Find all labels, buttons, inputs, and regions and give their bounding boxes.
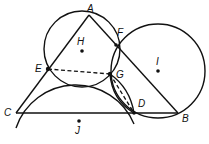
geometry-diagram: A B C D E F G H I J: [0, 0, 209, 144]
point-f: [114, 43, 118, 47]
label-g: G: [116, 69, 124, 80]
label-d: D: [138, 98, 145, 109]
point-g: [108, 72, 112, 76]
point-e: [46, 67, 50, 71]
dashed-segment-eg: [48, 69, 110, 74]
label-j: J: [74, 125, 81, 136]
point-h-center: [80, 49, 84, 53]
point-d: [132, 111, 136, 115]
label-a: A: [86, 3, 94, 14]
segment-ac: [16, 15, 89, 113]
label-f: F: [117, 27, 124, 38]
label-b: B: [182, 113, 189, 124]
label-i: I: [156, 56, 159, 67]
point-j-center: [77, 119, 81, 123]
label-e: E: [35, 63, 42, 74]
segment-ab: [89, 15, 178, 113]
point-i-center: [156, 69, 160, 73]
label-h: H: [77, 36, 85, 47]
label-c: C: [4, 107, 12, 118]
